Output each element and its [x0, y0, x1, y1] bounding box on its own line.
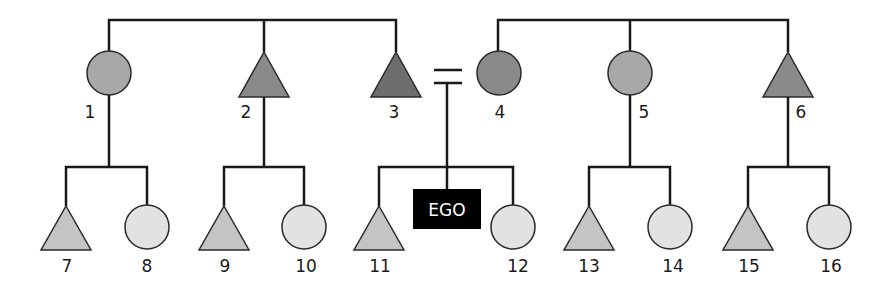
male-triangle-icon — [199, 206, 249, 250]
female-circle-icon — [125, 205, 169, 249]
person-16: 16 — [807, 205, 851, 276]
male-triangle-icon — [723, 206, 773, 250]
person-11: 11 — [354, 206, 404, 276]
person-label: 2 — [241, 102, 252, 122]
male-triangle-icon — [354, 206, 404, 250]
female-circle-icon — [87, 51, 131, 95]
person-label: 6 — [796, 102, 807, 122]
female-circle-icon — [477, 51, 521, 95]
female-circle-icon — [282, 205, 326, 249]
person-13: 13 — [564, 206, 614, 276]
sibling-bar-1 — [66, 167, 147, 206]
female-circle-icon — [491, 205, 535, 249]
sibling-bar-6 — [748, 167, 829, 206]
male-triangle-icon — [41, 206, 91, 250]
maternal-sibling-connector — [498, 20, 788, 52]
person-label: 14 — [662, 256, 684, 276]
person-label: 8 — [142, 256, 153, 276]
person-8: 8 — [125, 205, 169, 276]
female-circle-icon — [608, 51, 652, 95]
male-triangle-icon — [239, 52, 289, 97]
ego-box: EGO — [413, 189, 481, 229]
person-label: 1 — [85, 102, 96, 122]
person-14: 14 — [648, 205, 692, 276]
person-label: 16 — [820, 256, 842, 276]
male-triangle-icon — [371, 52, 421, 97]
sibling-bar-5 — [589, 167, 670, 206]
person-label: 7 — [62, 256, 73, 276]
person-15: 15 — [723, 206, 773, 276]
person-9: 9 — [199, 206, 249, 276]
male-triangle-icon — [564, 206, 614, 250]
person-label: 9 — [220, 256, 231, 276]
person-3: 3 — [371, 52, 421, 122]
ego-label: EGO — [428, 200, 465, 220]
sibling-bar-2 — [224, 167, 304, 206]
person-label: 5 — [639, 102, 650, 122]
person-10: 10 — [282, 205, 326, 276]
male-triangle-icon — [763, 52, 813, 97]
paternal-sibling-connector — [109, 20, 396, 52]
person-label: 10 — [295, 256, 317, 276]
kinship-diagram: 1 2 3 4 5 6 7 8 — [0, 0, 891, 285]
marriage-symbol — [434, 70, 462, 167]
person-label: 4 — [495, 102, 506, 122]
person-7: 7 — [41, 206, 91, 276]
person-label: 11 — [369, 256, 391, 276]
female-circle-icon — [807, 205, 851, 249]
person-4: 4 — [477, 51, 521, 122]
person-label: 3 — [389, 102, 400, 122]
person-label: 15 — [738, 256, 760, 276]
person-12: 12 — [491, 205, 535, 276]
person-label: 13 — [578, 256, 600, 276]
female-circle-icon — [648, 205, 692, 249]
person-label: 12 — [507, 256, 529, 276]
